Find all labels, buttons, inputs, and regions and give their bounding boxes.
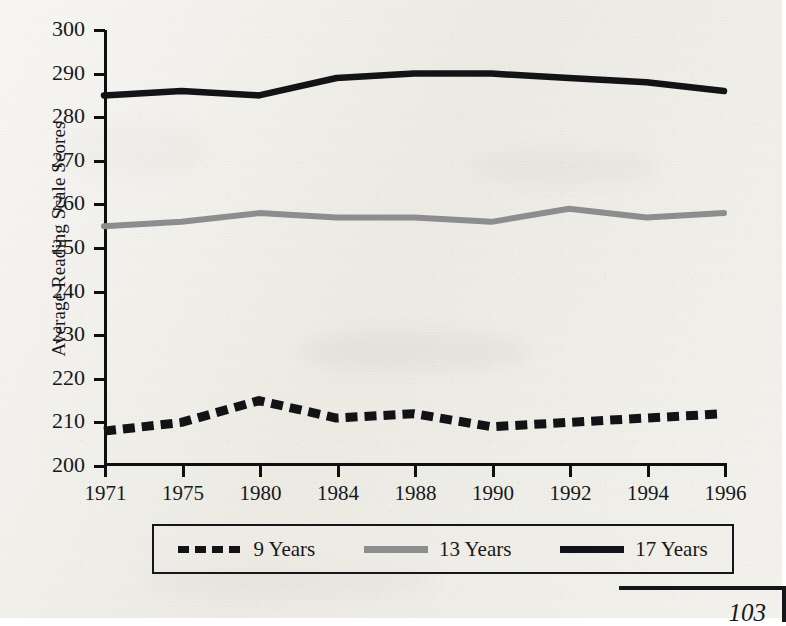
y-axis-tick-label: 210 (52, 408, 85, 434)
y-axis-tick-label: 270 (52, 147, 85, 173)
y-axis-tick-label: 260 (52, 190, 85, 216)
x-axis-tick-label: 1990 (472, 481, 514, 506)
x-axis-tick: 1988 (414, 466, 417, 477)
x-axis-tick: 1984 (337, 466, 340, 477)
legend-item-13-years: 13 Years (364, 537, 511, 562)
x-axis-tick: 1994 (647, 466, 650, 477)
x-axis-tick: 1980 (259, 466, 262, 477)
y-axis-tick-label: 280 (52, 103, 85, 129)
x-axis-tick: 1975 (182, 466, 185, 477)
series-line-9-years (104, 401, 724, 432)
chart-legend: 9 Years 13 Years 17 Years (152, 524, 734, 574)
y-axis-tick-label: 220 (52, 365, 85, 391)
page-corner-rule: 103 (619, 586, 786, 622)
x-axis-tick: 1992 (569, 466, 572, 477)
x-axis-tick-label: 1980 (240, 481, 282, 506)
x-axis-tick-label: 1994 (627, 481, 669, 506)
series-line-13-years (104, 209, 724, 226)
chart-plot-area: 200210220230240250260270280290300 197119… (104, 30, 726, 466)
y-axis-tick-label: 230 (52, 321, 85, 347)
y-axis-tick-label: 240 (52, 278, 85, 304)
x-axis-tick-label: 1992 (550, 481, 592, 506)
y-axis-tick-label: 250 (52, 234, 85, 260)
legend-label: 13 Years (439, 537, 511, 562)
page-number: 103 (729, 599, 767, 626)
x-axis-tick: 1971 (104, 466, 107, 477)
x-axis-tick-label: 1971 (85, 481, 127, 506)
y-axis-tick-label: 290 (52, 60, 85, 86)
legend-label: 17 Years (635, 537, 707, 562)
x-axis-tick-label: 1988 (395, 481, 437, 506)
dashed-line-swatch-icon (178, 546, 242, 553)
y-axis-tick-label: 200 (52, 452, 85, 478)
x-axis-tick-label: 1975 (162, 481, 204, 506)
legend-item-17-years: 17 Years (560, 537, 707, 562)
x-axis-tick: 1990 (492, 466, 495, 477)
x-axis-tick: 1996 (724, 466, 727, 477)
legend-item-9-years: 9 Years (178, 537, 315, 562)
y-axis-tick-label: 300 (52, 16, 85, 42)
legend-label: 9 Years (253, 537, 315, 562)
x-axis-tick-label: 1984 (317, 481, 359, 506)
chart-series-lines (104, 30, 726, 466)
series-line-17-years (104, 74, 724, 96)
gray-line-swatch-icon (364, 546, 428, 553)
x-axis-tick-label: 1996 (705, 481, 747, 506)
black-line-swatch-icon (560, 546, 624, 553)
